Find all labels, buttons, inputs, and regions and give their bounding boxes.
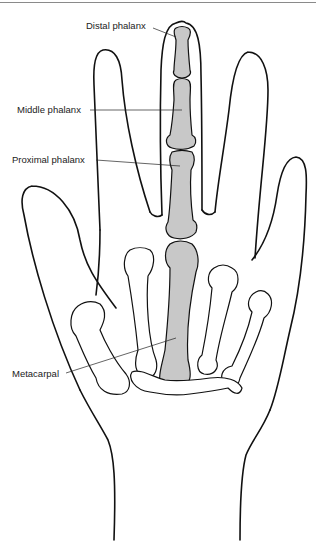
distal-phalanx-bone <box>173 27 190 79</box>
label-proximal-phalanx: Proximal phalanx <box>12 154 85 165</box>
label-middle-phalanx: Middle phalanx <box>17 104 81 115</box>
label-metacarpal: Metacarpal <box>12 368 59 379</box>
leader-distal <box>153 28 176 37</box>
label-distal-phalanx: Distal phalanx <box>86 20 146 31</box>
middle-ray-bones <box>159 27 198 386</box>
hand-bone-diagram <box>0 0 320 548</box>
middle-phalanx-bone <box>166 79 195 150</box>
hand-outline <box>22 22 306 541</box>
proximal-phalanx-bone <box>166 151 197 239</box>
metacarpal-bone <box>159 241 198 385</box>
leader-proximal <box>96 160 180 166</box>
